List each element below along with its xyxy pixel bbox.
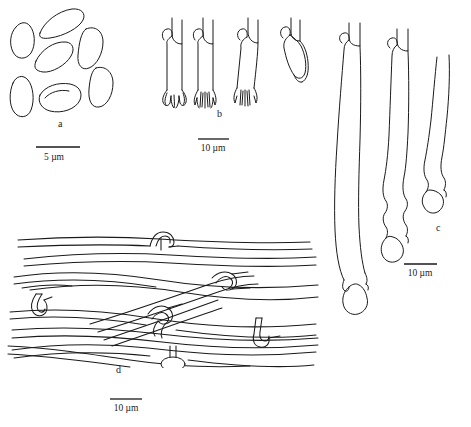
panel-a-scale-bar bbox=[32, 142, 92, 152]
hypha-diagonal-2 bbox=[104, 300, 222, 346]
clamp-connection-right bbox=[253, 318, 280, 347]
hypha-group-3 bbox=[14, 273, 318, 300]
basidium-4 bbox=[281, 18, 309, 82]
cystidium-2 bbox=[381, 29, 409, 262]
panel-d-label: d bbox=[116, 364, 121, 375]
hypha-diagonal-1 bbox=[90, 272, 258, 332]
panel-c-label: c bbox=[436, 222, 440, 233]
panel-b-label: b bbox=[217, 108, 222, 119]
cystidium-1 bbox=[335, 23, 369, 314]
basidium-3 bbox=[234, 18, 258, 106]
panel-b-basidia-drawing bbox=[155, 10, 315, 130]
panel-a-label: a bbox=[58, 118, 62, 129]
cystidium-3 bbox=[422, 55, 449, 213]
panel-d-hyphae-drawing bbox=[0, 228, 320, 368]
panel-a-scale-label: 5 µm bbox=[14, 152, 94, 162]
basidium-2 bbox=[193, 18, 216, 108]
panel-a-spores-drawing bbox=[0, 0, 140, 130]
basidium-1 bbox=[162, 18, 186, 108]
hypha-group-7 bbox=[8, 346, 250, 367]
figure-plate: a 5 µm bbox=[0, 0, 471, 427]
panel-b-scale-label: 10 µm bbox=[173, 143, 253, 153]
panel-c-scale-label: 10 µm bbox=[380, 268, 460, 278]
hypha-group-2 bbox=[24, 254, 316, 267]
hypha-group-1 bbox=[18, 232, 312, 250]
panel-d-scale-label: 10 µm bbox=[86, 403, 166, 413]
